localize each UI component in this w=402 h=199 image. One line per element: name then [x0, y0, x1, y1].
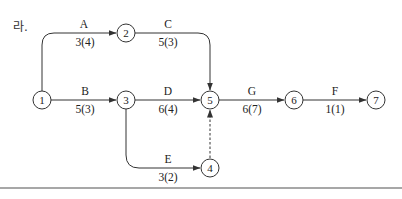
activity-f-duration: 1(1): [325, 103, 344, 116]
activity-c-name: C: [164, 18, 172, 30]
node-4: 4: [201, 159, 219, 177]
node-1: 1: [33, 91, 51, 109]
node-2: 2: [117, 24, 135, 42]
node-5-label: 5: [207, 94, 213, 106]
node-4-label: 4: [207, 162, 213, 174]
activity-f-name: F: [332, 85, 338, 97]
node-6-label: 6: [291, 94, 297, 106]
activity-b-name: B: [81, 85, 89, 97]
activity-a-name: A: [80, 18, 89, 30]
activity-d-duration: 6(4): [158, 103, 177, 116]
node-7-label: 7: [373, 94, 379, 106]
problem-label: 라.: [13, 20, 28, 34]
node-6: 6: [285, 91, 303, 109]
arrow-activity-e: [126, 109, 200, 168]
activity-g-duration: 6(7): [242, 103, 261, 116]
node-5: 5: [201, 91, 219, 109]
activity-b-duration: 5(3): [75, 103, 94, 116]
activity-e-name: E: [164, 153, 171, 165]
activity-g-name: G: [248, 85, 256, 97]
node-1-label: 1: [39, 94, 45, 106]
activity-e-duration: 3(2): [158, 171, 177, 184]
network-diagram: 라. A 3(4) B 5(3) C 5(3) D 6(4) E 3(2) G …: [0, 0, 402, 199]
node-3: 3: [117, 91, 135, 109]
node-7: 7: [367, 91, 385, 109]
activity-a-duration: 3(4): [75, 36, 94, 49]
activity-d-name: D: [164, 85, 172, 97]
activity-c-duration: 5(3): [158, 36, 177, 49]
node-3-label: 3: [123, 94, 129, 106]
node-2-label: 2: [123, 27, 129, 39]
